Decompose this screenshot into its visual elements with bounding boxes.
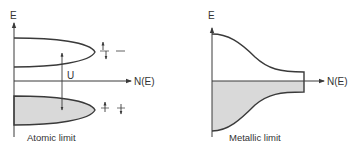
spin-pair-icon — [100, 42, 109, 59]
upper-hubbard-band — [14, 38, 95, 67]
atomic-limit-panel: E N(E) U Atomic limit — [10, 10, 155, 143]
unoccupied-band-edge — [212, 34, 304, 81]
band-diagram: E N(E) U Atomic limit E N(E) Metallic li… — [0, 0, 362, 149]
left-energy-label: E — [10, 10, 17, 21]
lower-hubbard-band — [14, 96, 95, 125]
hubbard-u-label: U — [67, 70, 74, 81]
occupied-band — [212, 81, 304, 131]
right-energy-label: E — [208, 10, 215, 21]
metallic-limit-panel: E N(E) Metallic limit — [208, 10, 348, 143]
right-dos-label: N(E) — [327, 76, 348, 87]
metallic-limit-caption: Metallic limit — [229, 132, 281, 143]
spin-up-icon — [101, 102, 109, 112]
atomic-limit-caption: Atomic limit — [27, 132, 76, 143]
spin-down-icon — [117, 104, 125, 114]
left-dos-label: N(E) — [134, 76, 155, 87]
